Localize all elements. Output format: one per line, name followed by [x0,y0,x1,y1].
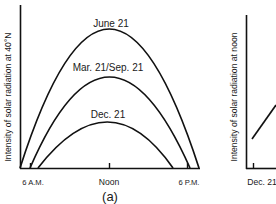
label-june-21: June 21 [93,18,129,29]
tick-label-6am: 6 A.M. [22,178,44,187]
label-equinox: Mar. 21/Sep. 21 [73,62,144,73]
curve-june-21 [20,29,199,168]
label-dec-21: Dec. 21 [91,109,126,120]
y-axis-label-a: Intensity of solar radiation at 40°N [3,32,13,161]
y-axis-label-b: Intensity of solar radiation at noon [229,32,239,161]
tick-label-dec21: Dec. 21 [247,177,276,187]
panel-label-a: (a) [102,189,118,204]
tick-label-noon: Noon [99,177,120,187]
curve-noon-intensity [252,105,276,139]
solar-radiation-figure: June 21 Mar. 21/Sep. 21 Dec. 21 Intensit… [0,0,276,204]
tick-label-6pm: 6 P.M. [179,178,200,187]
curve-dec-21 [38,122,173,168]
